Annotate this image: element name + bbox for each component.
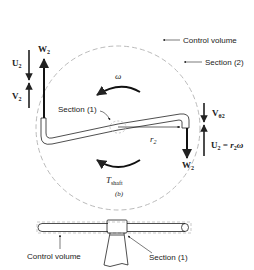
side-view: Control volume Section (1) (27, 220, 191, 267)
r2-label: r2 (150, 134, 157, 145)
u2-right-label: U2 = r2ω (211, 140, 244, 151)
torque-label: Tshaft (106, 175, 123, 186)
section-1-callout: Section (1) (58, 105, 110, 120)
omega-rotation-arrow: ω (97, 71, 140, 95)
w2-right-label: W2 (182, 160, 194, 171)
side-section-1-label: Section (1) (149, 253, 188, 262)
control-volume-callout: Control volume (163, 36, 237, 45)
panel-label: (b) (115, 190, 124, 198)
u2-left-label: U2 (12, 58, 22, 69)
section-2-callout: Section (2) (184, 58, 244, 67)
v2-left-label: V2 (12, 91, 22, 102)
sprinkler-arm (41, 114, 189, 144)
vtheta2-label: Vθ2 (212, 108, 225, 119)
svg-text:Section (2): Section (2) (205, 58, 244, 67)
right-velocity-vectors: W2 Vθ2 U2 = r2ω (182, 103, 244, 171)
svg-text:Control volume: Control volume (183, 36, 237, 45)
torque-arrow: Tshaft (97, 160, 140, 186)
sprinkler-diagram: r2 ω Tshaft Section (1) Control volume S… (0, 0, 254, 270)
omega-label: ω (115, 71, 121, 81)
side-control-volume-label: Control volume (27, 252, 81, 261)
svg-text:Section (1): Section (1) (58, 105, 97, 114)
w2-left-label: W2 (38, 44, 50, 55)
radius-r2-arrow: r2 (118, 127, 180, 145)
left-velocity-vectors: W2 U2 V2 (12, 44, 50, 118)
